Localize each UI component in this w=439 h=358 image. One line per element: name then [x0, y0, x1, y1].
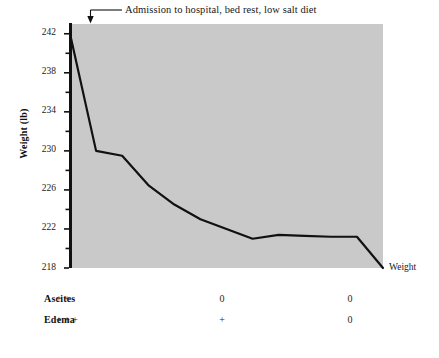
y-axis-major-ticks — [64, 34, 69, 268]
status-value-cell: + + + — [56, 314, 116, 325]
status-value-cell: + — [192, 314, 252, 325]
weight-chart-figure: Admission to hospital, bed rest, low sal… — [0, 0, 439, 358]
y-tick-label: 222 — [28, 222, 56, 232]
y-tick-label: 238 — [28, 66, 56, 76]
y-axis-title: Weight (lb) — [18, 99, 29, 169]
status-value-cell: + + — [56, 293, 116, 304]
weight-series-label: Weight — [389, 262, 416, 272]
status-row: Ascites+ +00 — [0, 293, 439, 314]
y-tick-label: 218 — [28, 262, 56, 272]
status-value-cell: 0 — [192, 293, 252, 304]
admission-annotation-label: Admission to hospital, bed rest, low sal… — [125, 4, 317, 15]
admission-annotation-arrow — [87, 10, 122, 24]
plot-background — [70, 24, 383, 268]
clinical-status-table: Ascites+ +00Edema+ + ++0 — [0, 293, 439, 343]
y-tick-label: 242 — [28, 27, 56, 37]
y-tick-label: 234 — [28, 105, 56, 115]
status-value-cell: 0 — [320, 293, 380, 304]
status-row: Edema+ + ++0 — [0, 314, 439, 335]
y-tick-label: 230 — [28, 144, 56, 154]
status-value-cell: 0 — [320, 314, 380, 325]
y-tick-label: 226 — [28, 183, 56, 193]
